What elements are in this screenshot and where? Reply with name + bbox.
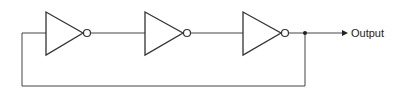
inverter-bubble-icon bbox=[184, 30, 191, 37]
inverter-triangle-icon bbox=[46, 12, 83, 55]
inverter-2 bbox=[145, 12, 191, 55]
inverter-bubble-icon bbox=[282, 30, 289, 37]
ring-oscillator-diagram: Output bbox=[0, 0, 399, 92]
inverter-3 bbox=[243, 12, 289, 55]
output-label: Output bbox=[351, 27, 384, 39]
inverter-triangle-icon bbox=[243, 12, 281, 55]
inverter-1 bbox=[46, 12, 91, 55]
inverter-bubble-icon bbox=[84, 30, 91, 37]
inverter-triangle-icon bbox=[145, 12, 183, 55]
arrow-right-icon bbox=[342, 30, 348, 36]
junction-dot-icon bbox=[303, 31, 307, 35]
